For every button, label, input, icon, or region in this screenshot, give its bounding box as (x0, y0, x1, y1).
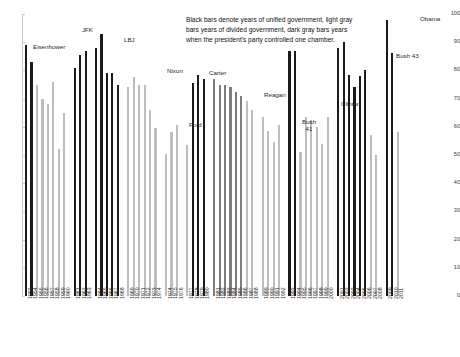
president-label: Bush41 (302, 118, 316, 133)
x-axis-year-label: 1992 (281, 287, 286, 299)
bar (288, 51, 290, 296)
x-axis-year-label: 1980 (205, 287, 210, 299)
bar (127, 87, 129, 296)
bar (192, 83, 194, 296)
bar (154, 128, 156, 296)
bar (348, 75, 350, 296)
bar (36, 85, 38, 297)
bar (386, 20, 388, 296)
president-label: Ford (189, 121, 202, 128)
x-axis-year-label: 2000 (329, 287, 334, 299)
bar (343, 42, 345, 296)
bar (278, 125, 280, 296)
bar (95, 48, 97, 296)
bar (203, 79, 205, 296)
bar (267, 131, 269, 296)
bar (149, 110, 151, 296)
bar (144, 85, 146, 297)
president-label: Bush 43 (396, 52, 419, 59)
bar (370, 135, 372, 296)
bar (111, 73, 113, 296)
bar (235, 92, 237, 296)
bar (359, 76, 361, 296)
president-label: Reagan (264, 91, 286, 98)
bar (186, 145, 188, 296)
bar (74, 68, 76, 296)
bar (364, 70, 366, 296)
president-label: Obama (420, 15, 440, 22)
bar (100, 34, 102, 296)
x-axis-year-label: 2011 (399, 288, 404, 299)
bar (316, 127, 318, 296)
bar (273, 142, 275, 296)
president-label: Nixon (167, 67, 183, 74)
bar (353, 87, 355, 296)
president-label: Clinton (341, 100, 360, 107)
bar (25, 45, 27, 296)
x-axis-year-label: 1974 (157, 287, 162, 299)
bar (224, 85, 226, 297)
bar (251, 110, 253, 296)
plot-area (22, 14, 454, 296)
bar (117, 85, 119, 297)
bar (219, 85, 221, 297)
bar (262, 117, 264, 296)
bar (41, 99, 43, 296)
bar (391, 53, 393, 296)
bar (165, 154, 167, 296)
chart-caption: Black bars denote years of unified gover… (186, 15, 362, 44)
president-label: LBJ (124, 36, 135, 43)
bar (133, 77, 135, 296)
bar (246, 101, 248, 296)
bar (240, 96, 242, 296)
president-label: Eisenhower (33, 43, 65, 50)
bar (63, 113, 65, 296)
bar (197, 75, 199, 296)
president-label: Carter (209, 69, 226, 76)
bar (47, 104, 49, 296)
president-label: JFK (82, 26, 93, 33)
bar (176, 125, 178, 296)
footer-strip (0, 345, 460, 357)
bar (337, 48, 339, 296)
bar (299, 152, 301, 296)
bar (375, 155, 377, 296)
bar (170, 132, 172, 296)
bar-chart: 0102030405060708090100 19531954195519561… (0, 0, 460, 357)
bar (321, 144, 323, 296)
bar (85, 51, 87, 296)
bar (106, 73, 108, 296)
y-tick-mark (22, 296, 25, 297)
bar (397, 132, 399, 296)
x-axis-year-label: 1960 (66, 287, 71, 299)
bar (138, 85, 140, 297)
bar (52, 82, 54, 296)
x-axis-year-label: 1968 (120, 287, 125, 299)
x-axis-year-label: 1976 (179, 287, 184, 299)
bar (79, 55, 81, 296)
bar (305, 117, 307, 296)
bar (58, 149, 60, 296)
bar (310, 120, 312, 296)
x-axis-year-label: 1988 (254, 287, 259, 299)
bar (213, 79, 215, 296)
bar (229, 87, 231, 296)
x-axis-year-label: 2008 (378, 287, 383, 299)
x-axis-year-label: 1963 (87, 287, 92, 299)
bar (30, 62, 32, 296)
bar (294, 51, 296, 296)
bar (327, 117, 329, 296)
